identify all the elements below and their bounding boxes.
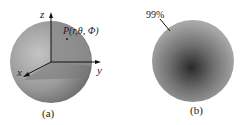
- y-axis-label: y: [97, 64, 102, 76]
- sphere-b: [152, 19, 234, 102]
- percentage-annotation: 99%: [146, 9, 164, 20]
- point-label: P(r,θ, Φ): [63, 25, 99, 36]
- z-axis-label: z: [40, 8, 44, 20]
- caption-b: (b): [190, 104, 203, 116]
- caption-a: (a): [42, 107, 54, 119]
- diagram-canvas: [0, 0, 244, 125]
- x-axis-label: x: [17, 66, 22, 78]
